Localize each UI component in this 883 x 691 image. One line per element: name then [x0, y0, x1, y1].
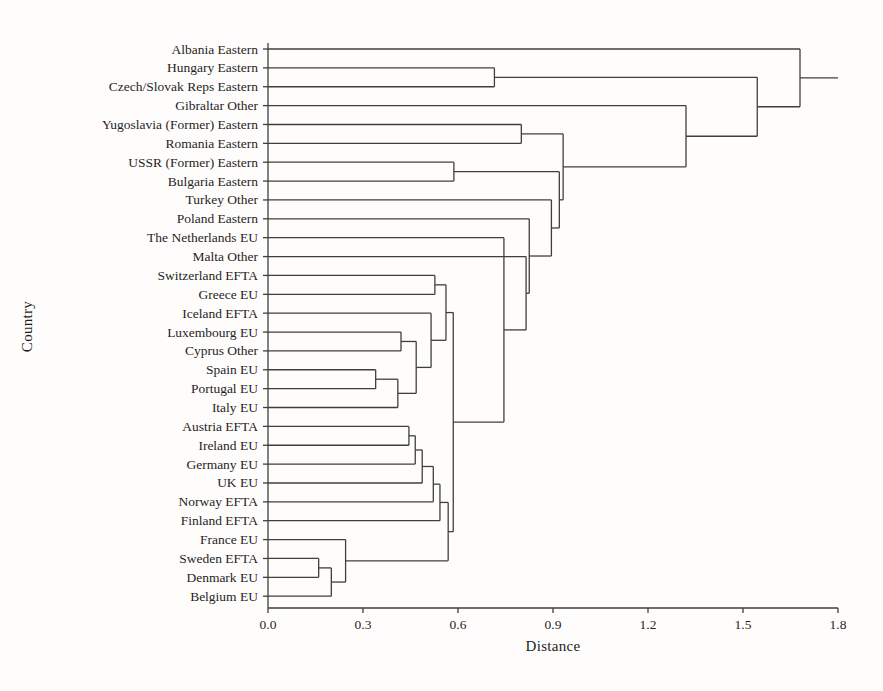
x-tick-label: 0.6 — [450, 617, 467, 632]
leaf-label: Finland EFTA — [181, 513, 259, 528]
leaf-label: Albania Eastern — [171, 42, 258, 57]
leaf-label: The Netherlands EU — [147, 230, 258, 245]
leaf-label: Greece EU — [198, 287, 258, 302]
leaf-label: France EU — [200, 532, 258, 547]
leaf-label: Spain EU — [206, 362, 258, 377]
x-tick-label: 0.9 — [545, 617, 562, 632]
x-axis-title: Distance — [268, 638, 838, 655]
leaf-label: Italy EU — [212, 400, 258, 415]
x-tick-label: 1.8 — [830, 617, 847, 632]
leaf-label: Malta Other — [192, 249, 258, 264]
dendrogram-plot: Albania EasternHungary EasternCzech/Slov… — [0, 0, 883, 691]
leaf-label: Cyprus Other — [185, 343, 259, 358]
x-tick-label: 0.0 — [260, 617, 277, 632]
leaf-label: Luxembourg EU — [167, 325, 258, 340]
leaf-label: Ireland EU — [198, 438, 258, 453]
leaf-label: Germany EU — [186, 457, 258, 472]
leaf-label: Romania Eastern — [165, 136, 258, 151]
dendrogram-figure: Albania EasternHungary EasternCzech/Slov… — [0, 0, 883, 691]
leaf-label: Bulgaria Eastern — [168, 174, 259, 189]
leaf-label: Yugoslavia (Former) Eastern — [102, 117, 258, 132]
leaf-label: Denmark EU — [186, 570, 258, 585]
leaf-label: Belgium EU — [190, 589, 258, 604]
y-axis-title: Country — [19, 47, 36, 607]
leaf-label: Czech/Slovak Reps Eastern — [109, 79, 258, 94]
leaf-label: UK EU — [217, 475, 258, 490]
leaf-label: Austria EFTA — [182, 419, 258, 434]
leaf-label: Portugal EU — [191, 381, 258, 396]
leaf-label: Norway EFTA — [178, 494, 258, 509]
leaf-label: Sweden EFTA — [179, 551, 258, 566]
leaf-label: Turkey Other — [185, 192, 258, 207]
leaf-label: Poland Eastern — [177, 211, 259, 226]
leaf-label: USSR (Former) Eastern — [128, 155, 258, 170]
x-tick-label: 0.3 — [355, 617, 372, 632]
leaf-label: Switzerland EFTA — [157, 268, 258, 283]
leaf-label: Hungary Eastern — [167, 60, 258, 75]
leaf-label: Iceland EFTA — [182, 306, 258, 321]
leaf-label: Gibraltar Other — [175, 98, 258, 113]
x-tick-label: 1.2 — [640, 617, 657, 632]
x-tick-label: 1.5 — [735, 617, 752, 632]
